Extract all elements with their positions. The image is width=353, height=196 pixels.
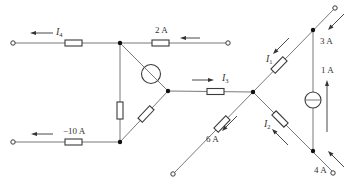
resistor-left-vertical <box>117 102 123 119</box>
current-source-right <box>305 92 321 108</box>
label-2a: 2 A <box>155 25 168 35</box>
wires <box>15 9 334 172</box>
resistor-i3 <box>207 89 224 95</box>
resistor-6a <box>214 116 230 132</box>
resistor-i1 <box>271 57 287 73</box>
label-3a: 3 A <box>320 36 333 46</box>
node-top-left <box>118 41 122 45</box>
label-i1: I1 <box>265 53 273 65</box>
resistor-diag-left <box>138 106 154 122</box>
node-bottom-left <box>118 140 122 144</box>
terminal-right-bottom <box>331 171 335 175</box>
arrow-i3-head-icon <box>208 78 214 82</box>
label-6a: 6 A <box>206 134 219 144</box>
current-source-left <box>142 65 161 84</box>
terminal-bottom-middle <box>171 172 175 176</box>
node-right-top <box>311 28 315 32</box>
terminal-right-top <box>333 6 337 10</box>
terminal-top-left <box>11 41 15 45</box>
arrow-i1-icon <box>276 38 289 51</box>
arrow-4a-icon <box>331 154 344 167</box>
label-1a: 1 A <box>321 65 334 75</box>
label-i3: I3 <box>221 72 229 84</box>
resistor-minus10a <box>65 139 82 145</box>
resistor-i2 <box>272 111 288 127</box>
arrow-i2-icon <box>275 132 288 145</box>
node-middle <box>166 89 170 93</box>
label-4a: 4 A <box>314 165 327 175</box>
arrow-3a-icon <box>331 14 344 27</box>
label-i4: I4 <box>55 26 63 38</box>
terminal-top-right <box>226 41 230 45</box>
circuit-diagram: I4 2 A −10 A I3 I1 3 A 1 A I2 4 A 6 A <box>0 0 353 196</box>
wire-hub-left <box>175 92 253 172</box>
arrow-minus10a-head-icon <box>31 132 37 136</box>
label-minus10a: −10 A <box>63 126 86 136</box>
node-right-bottom <box>311 149 315 153</box>
node-hub <box>251 90 255 94</box>
arrow-2a-head-icon <box>180 36 186 40</box>
wire-hub-top <box>253 9 334 92</box>
arrow-1a-head-icon <box>325 80 329 86</box>
label-i2: I2 <box>263 118 271 130</box>
resistor-2a <box>152 40 169 46</box>
terminal-bottom-left <box>11 140 15 144</box>
resistor-i4 <box>65 40 82 46</box>
arrow-i4-head-icon <box>30 31 36 35</box>
